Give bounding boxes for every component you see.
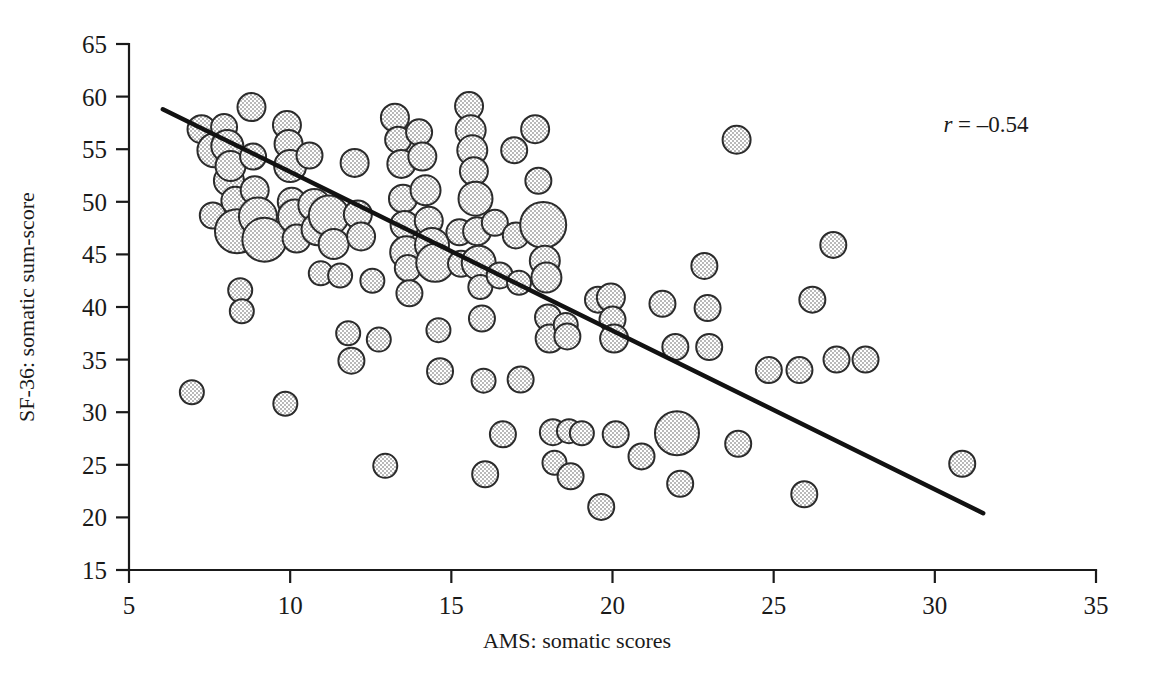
data-point	[472, 369, 496, 393]
data-point	[820, 232, 846, 258]
y-tick-label: 45	[82, 241, 107, 268]
data-point	[347, 223, 375, 251]
x-axis-title: AMS: somatic scores	[483, 628, 671, 653]
y-tick-label: 55	[82, 136, 107, 163]
x-tick-label: 20	[600, 592, 625, 619]
plot-canvas: 51015202530351520253035404550556065 AMS:…	[0, 0, 1154, 680]
data-point	[338, 348, 364, 374]
data-point	[396, 280, 422, 306]
y-tick-label: 15	[82, 557, 107, 584]
y-tick-label: 20	[82, 504, 107, 531]
trend-line-layer	[163, 109, 983, 513]
x-tick-label: 30	[922, 592, 947, 619]
scatter-plot-figure: 51015202530351520253035404550556065 AMS:…	[0, 0, 1154, 680]
data-point	[824, 347, 850, 373]
data-point	[180, 380, 204, 404]
data-point	[341, 149, 369, 177]
x-tick-label: 35	[1084, 592, 1109, 619]
data-point	[237, 93, 265, 121]
data-point	[472, 461, 498, 487]
data-point	[406, 119, 432, 145]
y-tick-label: 35	[82, 347, 107, 374]
correlation-annotation: r = –0.54	[943, 112, 1029, 137]
x-tick-label: 25	[761, 592, 786, 619]
data-points-layer	[180, 92, 975, 520]
data-point	[411, 175, 441, 205]
x-tick-label: 5	[123, 592, 136, 619]
data-point	[558, 463, 584, 489]
data-point	[570, 421, 594, 445]
data-point	[655, 411, 699, 455]
data-point	[297, 143, 323, 169]
data-point	[521, 115, 549, 143]
data-point	[723, 126, 751, 154]
data-point	[531, 263, 561, 293]
y-tick-label: 30	[82, 399, 107, 426]
data-point	[319, 229, 349, 259]
regression-trend-line	[163, 109, 983, 513]
data-point	[328, 263, 352, 287]
data-point	[459, 182, 493, 216]
data-point	[367, 328, 391, 352]
data-point	[725, 431, 751, 457]
data-point	[508, 367, 534, 393]
data-point	[949, 451, 975, 477]
data-point	[373, 454, 397, 478]
data-point	[756, 357, 782, 383]
correlation-value: = –0.54	[952, 112, 1029, 137]
data-point	[691, 253, 717, 279]
data-point	[525, 168, 551, 194]
y-tick-label: 65	[82, 31, 107, 58]
data-point	[230, 299, 254, 323]
y-tick-label: 25	[82, 452, 107, 479]
data-point	[799, 287, 825, 313]
y-tick-label: 60	[82, 84, 107, 111]
data-point	[408, 143, 436, 171]
data-point	[853, 347, 879, 373]
data-point	[360, 269, 384, 293]
data-point	[629, 443, 655, 469]
data-point	[667, 471, 693, 497]
y-tick-label: 40	[82, 294, 107, 321]
data-point	[786, 357, 812, 383]
data-point	[649, 291, 675, 317]
data-point	[588, 494, 614, 520]
data-point	[791, 481, 817, 507]
data-point	[336, 321, 360, 345]
data-point	[501, 137, 527, 163]
data-point	[603, 421, 629, 447]
data-point	[490, 421, 516, 447]
y-tick-label: 50	[82, 189, 107, 216]
x-tick-label: 10	[278, 592, 303, 619]
data-point	[696, 334, 722, 360]
data-point	[273, 392, 297, 416]
data-point	[695, 295, 721, 321]
data-point	[554, 323, 580, 349]
x-tick-label: 15	[439, 592, 464, 619]
data-point	[427, 358, 453, 384]
y-axis-title: SF-36: somatic sum-score	[14, 192, 39, 422]
data-point	[469, 306, 495, 332]
data-point	[520, 202, 566, 248]
data-point	[426, 318, 450, 342]
